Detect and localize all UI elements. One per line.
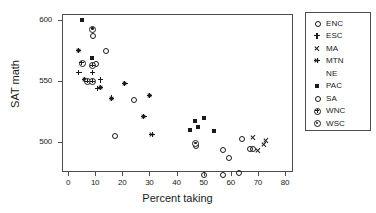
x-axis-tick-label: 70 [248,178,268,187]
legend-item-wsc[interactable]: WSC [306,117,370,130]
legend-item-ma[interactable]: MA [306,42,370,55]
x-axis-tick [204,172,205,176]
legend-label: WNC [326,106,345,115]
legend-item-wnc[interactable]: WNC [306,105,370,118]
x-axis-tick [258,172,259,176]
y-axis-tick-label: 500 [26,137,52,146]
legend-marker-open-circle-icon [306,17,326,29]
y-axis-title: SAT math [9,44,21,124]
legend-label: PAC [326,81,342,90]
x-axis-tick-label: 30 [139,178,159,187]
legend-marker-asterisk-icon [306,55,326,67]
legend-item-ne[interactable]: NE [306,67,370,80]
legend-item-sa[interactable]: SA [306,92,370,105]
legend-marker-circled-plus-icon [306,105,326,117]
x-axis-tick-label: 50 [194,178,214,187]
y-axis-tick-label: 550 [26,76,52,85]
legend-marker-circled-dot-icon [306,117,326,129]
x-axis-tick [177,172,178,176]
x-axis-tick-label: 60 [221,178,241,187]
legend-marker-plus-icon [306,30,326,42]
legend-item-mtn[interactable]: MTN [306,55,370,68]
x-axis-title: Percent taking [62,192,293,204]
x-axis-tick [231,172,232,176]
x-axis-tick [122,172,123,176]
legend-label: NE [326,69,337,78]
x-axis-tick-label: 0 [58,178,78,187]
plot-area [62,14,293,172]
legend-label: ENC [326,19,343,28]
x-axis-tick [149,172,150,176]
legend-item-pac[interactable]: PAC [306,80,370,93]
chart-page: SAT math 01020304050607080500550600 Perc… [0,0,376,213]
legend-item-esc[interactable]: ESC [306,30,370,43]
legend-marker-open-circle-icon [306,92,326,104]
x-axis-tick [95,172,96,176]
legend-label: SA [326,94,337,103]
x-axis-tick-label: 80 [275,178,295,187]
legend-label: ESC [326,31,343,40]
legend-label: MA [326,44,338,53]
legend-label: MTN [326,56,344,65]
x-axis-tick [68,172,69,176]
legend-marker-cross-icon [306,42,326,54]
x-axis-tick-label: 20 [112,178,132,187]
legend-marker-filled-square-icon [306,80,326,92]
legend-item-enc[interactable]: ENC [306,17,370,30]
legend: ENCESCMAMTNNEPACSAWNCWSC [305,12,371,131]
legend-label: WSC [326,119,345,128]
x-axis-tick [285,172,286,176]
x-axis-tick-label: 10 [85,178,105,187]
y-axis-tick-label: 600 [26,15,52,24]
x-axis-tick-label: 40 [167,178,187,187]
legend-marker-none-icon [306,67,326,79]
